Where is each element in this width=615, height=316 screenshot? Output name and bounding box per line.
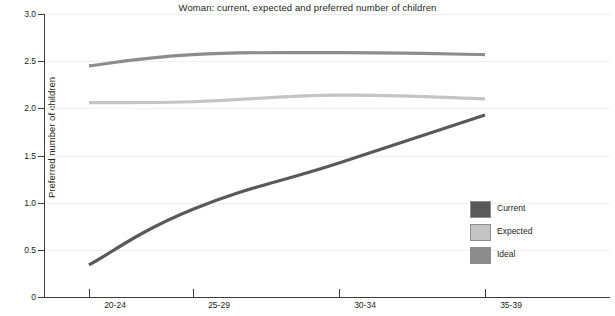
x-tick-label: 35-39: [481, 300, 541, 310]
x-tick-label: 30-34: [335, 300, 395, 310]
chart-container: Woman: current, expected and preferred n…: [0, 0, 615, 316]
legend-label: Ideal: [497, 249, 515, 259]
x-tick-label: 20-24: [85, 300, 145, 310]
x-axis-line: [44, 297, 610, 298]
y-tick-label: 1.0: [2, 198, 36, 208]
y-tick-label: 2.5: [2, 56, 36, 66]
legend-item-ideal[interactable]: Ideal: [470, 246, 580, 269]
y-tick-label: 1.5: [2, 151, 36, 161]
series-line-ideal: [89, 53, 485, 66]
series-line-expected: [89, 95, 485, 103]
chart-legend: CurrentExpectedIdeal: [470, 200, 580, 269]
chart-title: Woman: current, expected and preferred n…: [0, 2, 615, 13]
legend-item-expected[interactable]: Expected: [470, 223, 580, 246]
y-tick-label: 3.0: [2, 9, 36, 19]
legend-swatch-icon: [470, 224, 491, 241]
y-tick-label: 0.5: [2, 245, 36, 255]
legend-swatch-icon: [470, 201, 491, 218]
legend-label: Current: [497, 203, 525, 213]
legend-label: Expected: [497, 226, 532, 236]
y-tick-label: 0: [2, 292, 36, 302]
series-line-current: [89, 115, 485, 265]
legend-item-current[interactable]: Current: [470, 200, 580, 223]
x-tick-label: 25-29: [189, 300, 249, 310]
y-tick-label: 2.0: [2, 103, 36, 113]
legend-swatch-icon: [470, 247, 491, 264]
